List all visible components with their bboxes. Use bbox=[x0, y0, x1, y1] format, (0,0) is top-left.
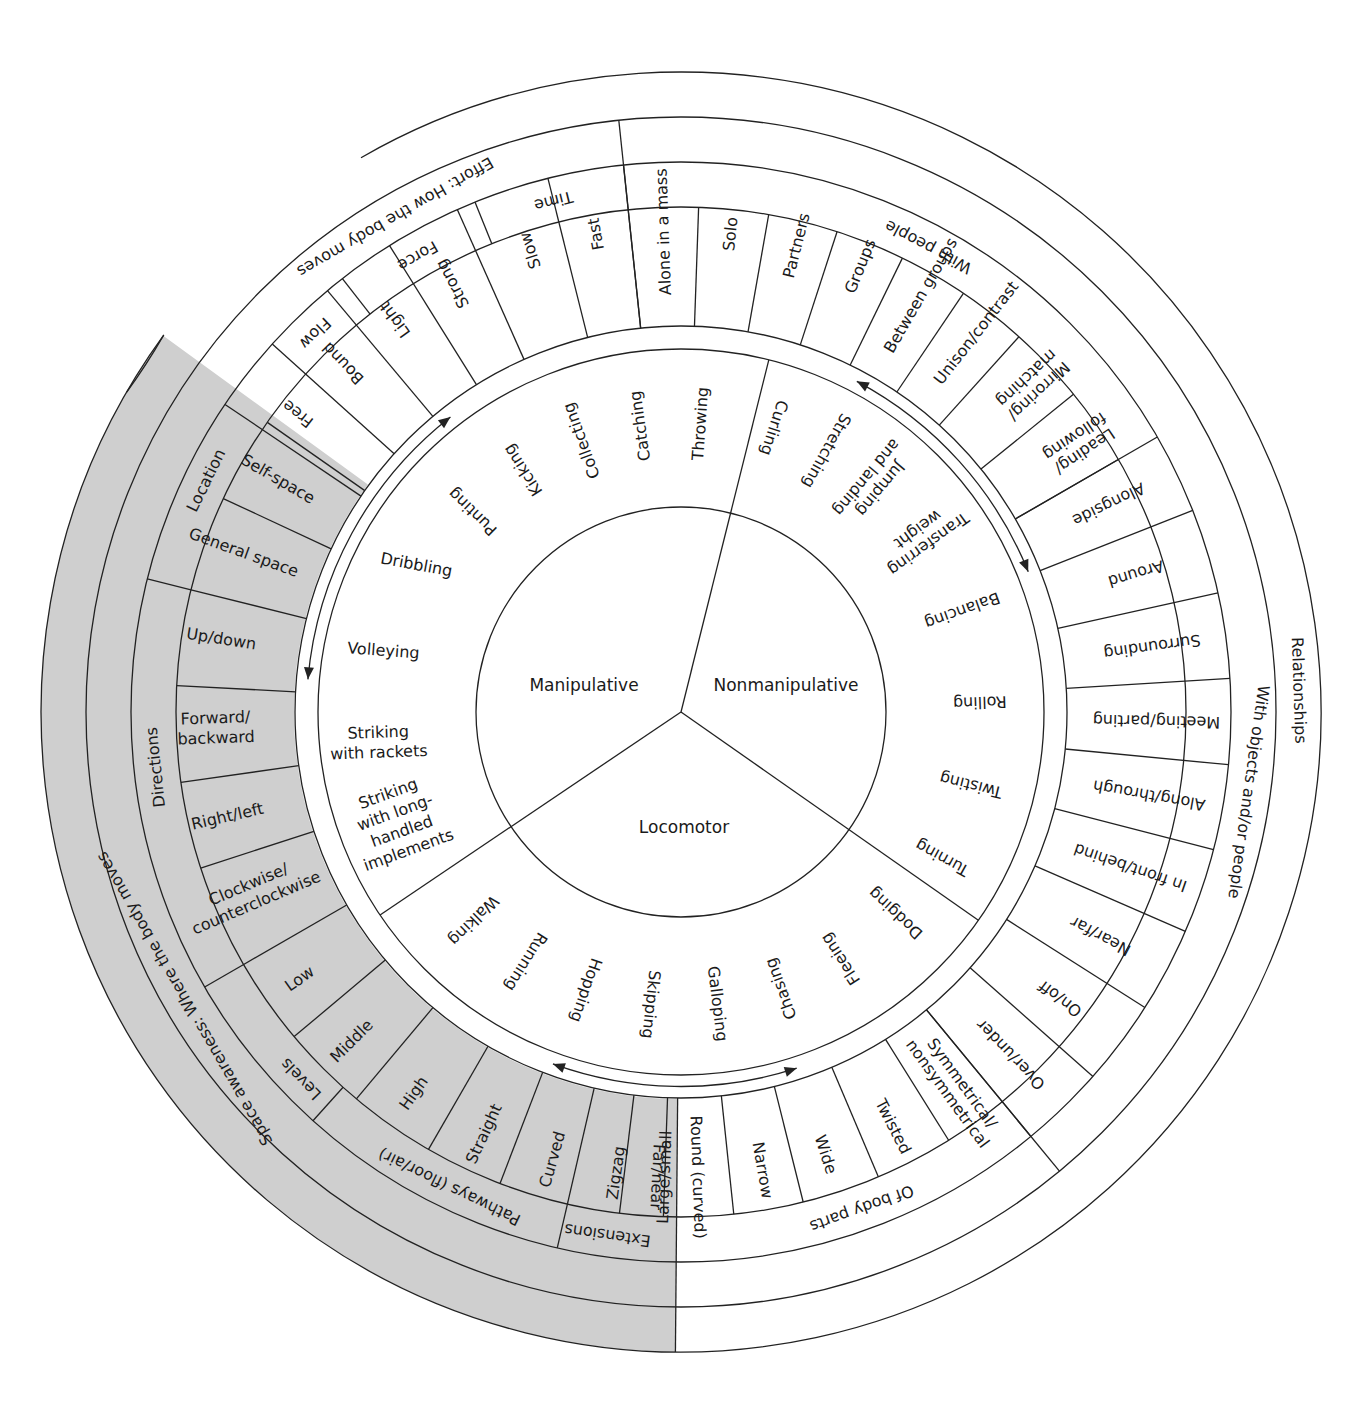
with-objects-item: Near/far bbox=[1067, 912, 1134, 960]
with-people-item: Unison/contrast bbox=[930, 277, 1023, 388]
manipulative-skill: Kicking bbox=[499, 441, 546, 500]
locomotor-skill: Skipping bbox=[638, 969, 664, 1040]
with-objects-item: Around bbox=[1106, 556, 1166, 591]
nonmanipulative-skill: Turning bbox=[912, 835, 973, 881]
locomotor-skill: Running bbox=[501, 929, 552, 995]
space-awareness-region bbox=[41, 336, 678, 1352]
with-people-item: Partners bbox=[779, 211, 814, 280]
divider-line bbox=[342, 279, 370, 314]
space-item: Far/near bbox=[646, 1144, 668, 1211]
locomotor-skill: Walking bbox=[445, 892, 503, 950]
locomotor-skill: Fleeing bbox=[817, 930, 865, 989]
movement-framework-wheel: ManipulativeNonmanipulativeLocomotorThro… bbox=[0, 0, 1354, 1407]
nonmanipulative-skill: Rolling bbox=[953, 692, 1007, 713]
manipulative-skill: Punting bbox=[444, 484, 501, 540]
nonmanipulative-skill: Stretching bbox=[799, 410, 856, 491]
effort-item: Strong bbox=[431, 256, 473, 311]
effort-title: Effort: How the body moves bbox=[294, 153, 497, 281]
relationship-group-body-parts: Of body parts bbox=[807, 1181, 916, 1236]
body-parts-item: Twisted bbox=[871, 1095, 915, 1157]
divider-line bbox=[800, 232, 837, 345]
with-objects-item: Alongside bbox=[1069, 479, 1148, 530]
arrow-head-icon bbox=[1019, 559, 1033, 574]
manipulative-skill: Strikingwith long-handledimplements bbox=[340, 768, 456, 875]
with-objects-item: Meeting/parting bbox=[1093, 711, 1221, 732]
nonmanipulative-skill: Curling bbox=[756, 398, 792, 458]
with-objects-item: Along/through bbox=[1091, 776, 1206, 814]
divider-line bbox=[774, 1087, 803, 1202]
nonmanipulative-skill: Transferringweight bbox=[874, 493, 974, 580]
relationships-title: Relationships bbox=[1288, 637, 1311, 744]
arrow-head-icon bbox=[303, 667, 314, 680]
divider-line bbox=[475, 202, 492, 244]
manipulative-skill: Throwing bbox=[688, 386, 712, 462]
divider-line bbox=[619, 120, 641, 328]
effort-item: Slow bbox=[515, 230, 545, 272]
label-manipulative: Manipulative bbox=[529, 675, 638, 695]
manipulative-skill: Dribbling bbox=[379, 548, 454, 580]
arrow-head-icon bbox=[551, 1059, 566, 1073]
divider-line bbox=[832, 1067, 878, 1177]
locomotor-skill: Hopping bbox=[566, 956, 606, 1025]
divider-line bbox=[1065, 749, 1228, 765]
with-people-item: Solo bbox=[719, 216, 741, 252]
direction-arrows bbox=[303, 377, 1033, 1087]
space-item: Forward/backward bbox=[176, 706, 255, 748]
arrow-head-icon bbox=[854, 377, 869, 391]
nonmanipulative-skill: Jumpingand landing bbox=[829, 436, 918, 532]
divider-line bbox=[1066, 678, 1230, 688]
body-parts-item: Wide bbox=[811, 1132, 841, 1176]
with-people-item: Alone in a mass bbox=[652, 168, 675, 295]
nonmanipulative-skill: Twisting bbox=[938, 768, 1006, 802]
label-nonmanipulative: Nonmanipulative bbox=[714, 675, 859, 695]
label-locomotor: Locomotor bbox=[639, 817, 729, 837]
divider-line bbox=[748, 215, 769, 332]
space-awareness-shading bbox=[41, 336, 678, 1352]
body-parts-item: Round (curved) bbox=[687, 1115, 710, 1239]
divider-line bbox=[721, 1096, 733, 1214]
manipulative-skill: Volleying bbox=[347, 638, 421, 662]
manipulative-skill: Collecting bbox=[559, 400, 604, 481]
relationship-group-objects: With objects and/or people bbox=[1225, 684, 1274, 900]
divider-line bbox=[1040, 510, 1193, 570]
with-people-item: Leading/following bbox=[1040, 409, 1120, 480]
locomotor-skill: Dodging bbox=[864, 883, 926, 943]
divider-line bbox=[1058, 593, 1218, 628]
nonmanipulative-skill: Balancing bbox=[922, 588, 1002, 633]
locomotor-skill: Chasing bbox=[761, 955, 801, 1022]
effort-group-time: Time bbox=[532, 187, 576, 215]
manipulative-skill: Catching bbox=[625, 390, 654, 463]
manipulative-skill: Strikingwith rackets bbox=[329, 720, 428, 763]
arrow-head-icon bbox=[784, 1063, 799, 1076]
body-parts-item: Narrow bbox=[748, 1140, 777, 1200]
with-objects-item: Surrounding bbox=[1102, 631, 1201, 663]
effort-item: Fast bbox=[584, 217, 608, 252]
divider-line bbox=[457, 210, 524, 360]
with-objects-item: On/off bbox=[1034, 976, 1085, 1021]
locomotor-skill: Galloping bbox=[704, 965, 732, 1043]
with-people-item: Mirroring/matching bbox=[992, 345, 1074, 425]
divider-line bbox=[694, 207, 698, 326]
with-people-item: Groups bbox=[841, 236, 880, 296]
effort-item: Bound bbox=[318, 338, 367, 388]
effort-item: Light bbox=[375, 298, 414, 341]
with-objects-item: In front/behind bbox=[1071, 840, 1189, 896]
